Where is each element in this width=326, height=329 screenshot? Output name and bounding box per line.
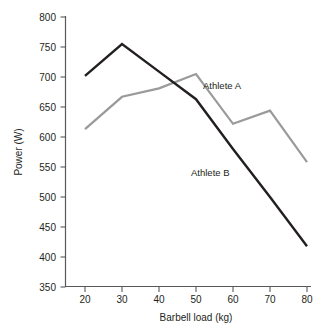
y-tick-label-800: 800 — [39, 12, 56, 23]
series-annotation-athlete-b: Athlete B — [191, 167, 230, 178]
x-axis-title: Barbell load (kg) — [160, 312, 233, 323]
x-tick-label-70: 70 — [264, 294, 276, 305]
line-chart: 800 750 700 650 600 550 500 450 400 350 … — [0, 0, 326, 329]
x-axis-ticks — [85, 287, 307, 292]
y-tick-label-350: 350 — [39, 282, 56, 293]
y-tick-label-750: 750 — [39, 42, 56, 53]
x-tick-label-40: 40 — [153, 294, 165, 305]
x-tick-label-60: 60 — [227, 294, 239, 305]
x-tick-label-50: 50 — [190, 294, 202, 305]
chart-container: 800 750 700 650 600 550 500 450 400 350 … — [0, 0, 326, 329]
x-tick-label-80: 80 — [301, 294, 313, 305]
y-tick-label-450: 450 — [39, 222, 56, 233]
y-axis-ticks — [61, 17, 66, 287]
y-tick-label-550: 550 — [39, 162, 56, 173]
y-axis-title: Power (W) — [13, 128, 24, 175]
x-tick-label-20: 20 — [79, 294, 91, 305]
y-tick-label-400: 400 — [39, 252, 56, 263]
x-tick-label-30: 30 — [116, 294, 128, 305]
y-tick-label-500: 500 — [39, 192, 56, 203]
y-tick-label-600: 600 — [39, 132, 56, 143]
y-tick-label-650: 650 — [39, 102, 56, 113]
series-line-athlete-a — [85, 74, 307, 162]
series-annotation-athlete-a: Athlete A — [203, 80, 242, 91]
y-tick-label-700: 700 — [39, 72, 56, 83]
